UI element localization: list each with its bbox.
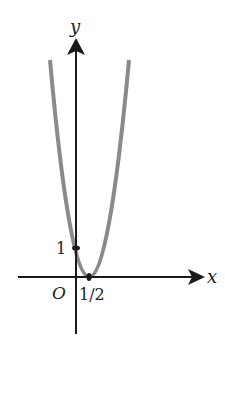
y-intercept-mark xyxy=(72,246,80,251)
x-axis-label: x xyxy=(207,266,217,287)
parabola-graph: y x O 1 1/2 xyxy=(0,0,225,399)
y-intercept-label: 1 xyxy=(56,239,66,258)
vertex-x-label: 1/2 xyxy=(79,285,105,304)
vertex-mark xyxy=(87,273,92,281)
y-axis-label: y xyxy=(69,16,81,37)
origin-label: O xyxy=(52,283,66,303)
